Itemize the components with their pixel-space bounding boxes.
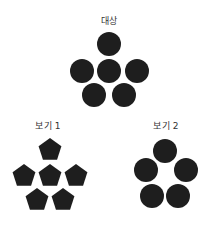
target-circle-6 (112, 83, 136, 107)
target-pattern (70, 32, 149, 107)
option-2-circle-5 (166, 184, 190, 208)
option-2-circle-4 (140, 184, 164, 208)
target-circle-4 (125, 59, 149, 83)
target-circle-1 (97, 32, 121, 56)
option-1-pentagon-1 (39, 138, 62, 160)
option-2-circle-2 (134, 158, 158, 182)
option-1-pentagon-5 (26, 188, 49, 210)
figure-canvas (0, 0, 210, 227)
option-2-pattern (134, 139, 198, 208)
target-circle-5 (82, 83, 106, 107)
target-circle-3 (97, 59, 121, 83)
option-2-circle-1 (153, 139, 177, 163)
option-1-pentagon-3 (39, 164, 62, 186)
option-2-circle-3 (174, 158, 198, 182)
option-1-pattern (13, 138, 88, 210)
target-circle-2 (70, 59, 94, 83)
option-1-pentagon-4 (65, 164, 88, 186)
option-1-pentagon-2 (13, 164, 36, 186)
option-1-pentagon-6 (52, 188, 75, 210)
